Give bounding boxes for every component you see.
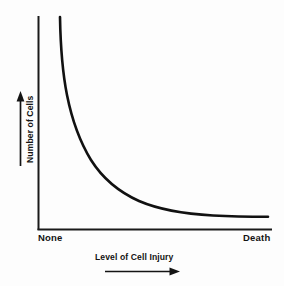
x-axis-tick-label-death: Death: [243, 233, 270, 243]
chart-canvas: [0, 0, 284, 286]
up-arrow-icon: [17, 91, 25, 166]
x-axis-title: Level of Cell Injury: [95, 253, 173, 262]
decay-curve: [60, 17, 268, 217]
y-axis-title: Number of Cells: [26, 84, 35, 174]
x-axis-tick-label-none: None: [38, 233, 63, 243]
right-arrow-icon: [105, 267, 180, 275]
figure-root: None Death Level of Cell Injury Number o…: [0, 0, 284, 286]
